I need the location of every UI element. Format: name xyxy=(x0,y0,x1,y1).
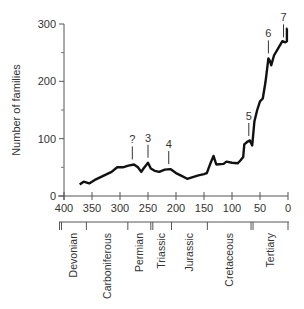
annotation-label: 6 xyxy=(265,27,271,39)
annotation-label: ? xyxy=(129,133,135,145)
period-label-triassic: Triassic xyxy=(155,233,167,269)
y-tick-label: 200 xyxy=(38,75,56,87)
annotation-label: 7 xyxy=(280,11,286,23)
y-axis-label: Number of families xyxy=(10,64,22,156)
x-tick-label: 150 xyxy=(195,202,213,214)
geologic-period-bar: DevonianCarboniferousPermianTriassicJura… xyxy=(59,222,289,299)
x-tick-label: 250 xyxy=(139,202,157,214)
annotation-label: 4 xyxy=(166,138,172,150)
annotation-label: 5 xyxy=(246,110,252,122)
annotations: ?34567 xyxy=(129,11,286,164)
y-tick-label: 0 xyxy=(50,190,56,202)
y-tick-label: 300 xyxy=(38,18,56,30)
annotation-label: 3 xyxy=(145,132,151,144)
period-label-tertiary: Tertiary xyxy=(264,232,276,267)
x-tick-label: 400 xyxy=(55,202,73,214)
x-tick-label: 300 xyxy=(111,202,129,214)
period-label-cretaceous: Cretaceous xyxy=(223,233,235,287)
period-label-carboniferous: Carboniferous xyxy=(101,233,113,299)
y-axis: 0100200300 xyxy=(38,18,64,202)
period-label-jurassic: Jurassic xyxy=(183,233,195,272)
y-tick-label: 100 xyxy=(38,133,56,145)
x-axis: 400350300250200150100500 xyxy=(55,192,291,214)
series-line xyxy=(80,29,288,185)
chart: 0100200300 400350300250200150100500 Numb… xyxy=(0,0,304,309)
period-label-devonian: Devonian xyxy=(67,233,79,278)
period-label-permian: Permian xyxy=(133,233,145,272)
x-tick-label: 100 xyxy=(223,202,241,214)
x-tick-label: 200 xyxy=(167,202,185,214)
x-tick-label: 0 xyxy=(285,202,291,214)
x-tick-label: 350 xyxy=(83,202,101,214)
x-tick-label: 50 xyxy=(254,202,266,214)
